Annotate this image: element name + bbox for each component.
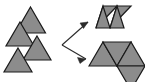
diagram-canvas xyxy=(0,0,145,82)
triangle-tiling-diagram xyxy=(0,0,145,82)
